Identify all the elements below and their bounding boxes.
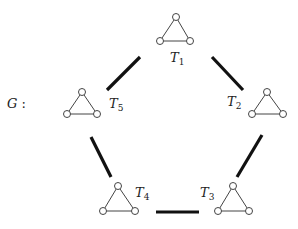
triangle-t5 <box>64 89 101 118</box>
vertex <box>173 14 180 21</box>
label-t4: T4 <box>135 185 150 202</box>
graph-name-label: G : <box>7 96 26 111</box>
vertex <box>249 111 256 118</box>
label-t2: T2 <box>227 94 241 111</box>
vertex <box>94 111 101 118</box>
triangle-t3 <box>215 183 253 215</box>
triangle-t1 <box>157 14 194 45</box>
edge-t4-t5 <box>91 137 111 177</box>
triangle-t2 <box>249 89 287 118</box>
graph-diagram: G : T1 T2 T3 T4 T5 <box>0 0 298 229</box>
vertex <box>187 38 194 45</box>
edge-t2-t3 <box>237 135 262 177</box>
triangle-t4 <box>100 183 139 215</box>
vertex <box>246 208 253 215</box>
vertex <box>132 208 139 215</box>
vertex <box>115 183 122 190</box>
label-t1: T1 <box>170 50 184 67</box>
vertex <box>215 208 222 215</box>
edge-t5-t1 <box>107 57 140 90</box>
vertex <box>280 111 287 118</box>
vertex <box>157 38 164 45</box>
vertex <box>100 208 107 215</box>
edge-t1-t2 <box>212 57 243 90</box>
vertex <box>79 89 86 96</box>
vertex <box>230 183 237 190</box>
label-t5: T5 <box>109 96 124 113</box>
vertex <box>64 111 71 118</box>
vertex <box>264 89 271 96</box>
label-t3: T3 <box>200 185 215 202</box>
